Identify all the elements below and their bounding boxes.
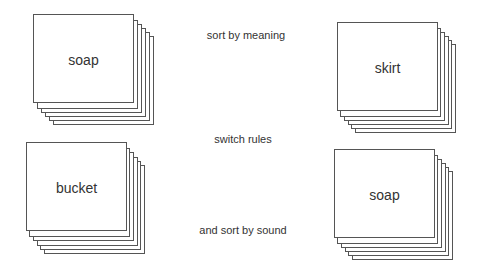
card-front: soap xyxy=(334,149,435,238)
card-deck-top-left: soap xyxy=(33,14,163,139)
card-front: soap xyxy=(33,14,134,103)
card-deck-bottom-left: bucket xyxy=(26,142,156,267)
card-deck-top-right: skirt xyxy=(337,22,467,147)
card-label: bucket xyxy=(56,180,97,196)
card-deck-bottom-right: soap xyxy=(334,149,464,274)
card-label: soap xyxy=(369,187,399,203)
card-label: soap xyxy=(68,52,98,68)
card-front: bucket xyxy=(26,142,127,231)
card-front: skirt xyxy=(337,22,438,111)
caption-sort-by-meaning: sort by meaning xyxy=(207,29,285,41)
caption-sort-by-sound: and sort by sound xyxy=(199,224,286,236)
card-label: skirt xyxy=(375,60,401,76)
caption-switch-rules: switch rules xyxy=(214,133,271,145)
